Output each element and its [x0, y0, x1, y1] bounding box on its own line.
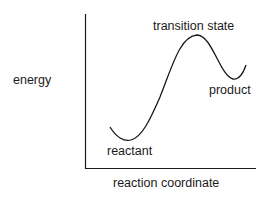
reactant-label: reactant: [107, 145, 152, 158]
x-axis-label: reaction coordinate: [113, 177, 219, 190]
transition-state-label: transition state: [153, 20, 234, 33]
y-axis-label: energy: [13, 74, 51, 87]
product-label: product: [209, 84, 251, 97]
